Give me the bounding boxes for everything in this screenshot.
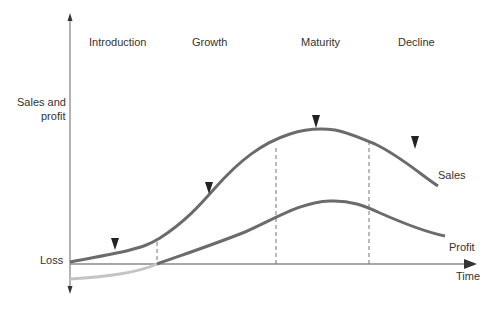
sales-curve xyxy=(70,129,438,262)
x-axis-arrow-icon xyxy=(464,259,477,269)
x-axis-label: Time xyxy=(456,270,480,282)
stage-label-introduction: Introduction xyxy=(89,36,146,48)
y-axis-label-line2: profit xyxy=(41,110,65,122)
stage-marker-introduction-icon xyxy=(111,238,119,250)
stage-label-growth: Growth xyxy=(192,36,227,48)
stage-marker-decline-icon xyxy=(411,136,419,149)
y-axis-label-line1: Sales and xyxy=(17,96,66,108)
profit-curve-label: Profit xyxy=(449,241,475,253)
stage-label-maturity: Maturity xyxy=(301,36,340,48)
stage-label-decline: Decline xyxy=(398,36,435,48)
loss-curve xyxy=(70,264,157,279)
y-axis-arrow-up-icon xyxy=(68,13,73,21)
stage-marker-maturity-icon xyxy=(312,115,320,128)
profit-curve xyxy=(157,201,445,264)
loss-label: Loss xyxy=(40,254,63,266)
sales-curve-label: Sales xyxy=(438,169,466,181)
y-axis-arrow-down-icon xyxy=(68,286,73,294)
